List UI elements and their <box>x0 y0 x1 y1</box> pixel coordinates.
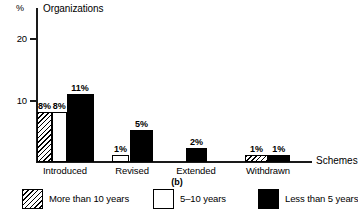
bar-introduced-5-10-years: 8% <box>52 112 67 162</box>
legend-label: Less than 5 years <box>285 194 358 204</box>
x-category-label-withdrawn: Withdrawn <box>246 166 290 176</box>
x-category-label-revised: Revised <box>115 166 149 176</box>
bar-value-label: 2% <box>190 138 203 147</box>
bar-value-label: 8% <box>38 102 51 111</box>
x-category-label-extended: Extended <box>176 166 215 176</box>
chart-legend: More than 10 years 5–10 years Less than … <box>0 188 355 214</box>
legend-swatch-black-icon <box>258 189 279 209</box>
bar-value-label: 1% <box>114 145 127 154</box>
x-category-label-introduced: Introduced <box>43 166 87 176</box>
bar-value-label: 11% <box>71 84 89 93</box>
bar-value-label: 8% <box>53 102 66 111</box>
bars-layer: 8% 8% 11% 1% 5% 2% 1% 1% <box>0 0 355 162</box>
legend-item-more-than-10-years: More than 10 years <box>22 188 129 210</box>
bar-introduced-less-than-5-years: 11% <box>67 94 94 162</box>
legend-label: More than 10 years <box>49 194 129 204</box>
bar-revised-5-10-years: 1% <box>112 155 129 162</box>
legend-label: 5–10 years <box>180 194 226 204</box>
bar-value-label: 5% <box>135 120 148 129</box>
bar-withdrawn-less-than-5-years: 1% <box>268 155 290 162</box>
legend-item-5-10-years: 5–10 years <box>153 188 226 210</box>
bar-value-label: 1% <box>272 145 285 154</box>
legend-swatch-hatched-icon <box>22 189 43 209</box>
legend-swatch-white-icon <box>153 189 174 209</box>
figure-caption: (b) <box>171 178 183 187</box>
bar-introduced-more-than-10-years: 8% <box>37 112 52 162</box>
bar-revised-less-than-5-years: 5% <box>130 130 153 162</box>
bar-withdrawn-more-than-10-years: 1% <box>245 155 268 162</box>
bar-value-label: 1% <box>250 145 263 154</box>
bar-extended-less-than-5-years: 2% <box>186 148 207 162</box>
legend-item-less-than-5-years: Less than 5 years <box>258 188 358 210</box>
